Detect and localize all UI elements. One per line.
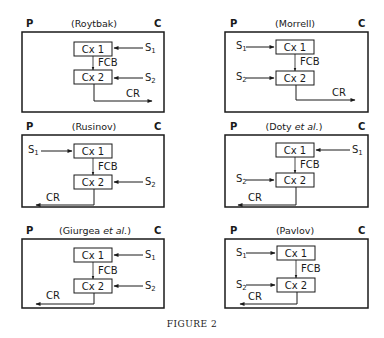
panel-title: (Rusinov): [72, 121, 117, 132]
p-label: P: [230, 225, 237, 236]
p-label: P: [230, 18, 237, 29]
figure-caption: FIGURE 2: [167, 319, 218, 329]
s2-label: S2: [145, 72, 156, 85]
cx1-label: Cx 1: [82, 44, 104, 55]
panel-rusinov: P (Rusinov) C Cx 1 Cx 2 FCB S1 S2 CR: [22, 121, 164, 207]
cx1-label: Cx 1: [82, 250, 104, 261]
fcb-label: FCB: [301, 263, 321, 274]
s1-label: S1: [236, 247, 247, 260]
c-label: C: [154, 121, 161, 132]
cx2-label: Cx 2: [82, 72, 104, 83]
cx1-label: Cx 1: [284, 42, 306, 53]
p-label: P: [26, 18, 33, 29]
s2-label: S2: [145, 280, 156, 293]
cr-arrow: [238, 187, 296, 205]
panel-giurgea: P (Giurgea et al.) C Cx 1 Cx 2 FCB S1 S2…: [22, 225, 164, 308]
cr-arrow: [36, 293, 94, 304]
cr-label: CR: [332, 87, 346, 98]
c-label: C: [358, 18, 365, 29]
cx1-label: Cx 1: [284, 145, 306, 156]
s2-label: S2: [236, 279, 247, 292]
cx2-label: Cx 2: [285, 280, 307, 291]
cx1-label: Cx 1: [82, 146, 104, 157]
s2-label: S2: [236, 71, 247, 84]
s1-label: S1: [145, 42, 156, 55]
figure-canvas: P (Roytbak) C Cx 1 Cx 2 FCB S1 S2 CR P (…: [0, 0, 384, 338]
c-label: C: [358, 121, 365, 132]
c-label: C: [154, 18, 161, 29]
panel-title: (Roytbak): [71, 18, 117, 29]
fcb-label: FCB: [98, 57, 118, 68]
panel-title: (Doty et al.): [266, 121, 323, 132]
panel-pavlov: P (Pavlov) C Cx 1 Cx 2 FCB S1 S2 CR: [225, 225, 368, 308]
panel-roytbak: P (Roytbak) C Cx 1 Cx 2 FCB S1 S2 CR: [22, 18, 164, 112]
s1-label: S1: [352, 144, 363, 157]
panel-morrell: P (Morrell) C Cx 1 Cx 2 FCB S1 S2 CR: [225, 18, 368, 112]
cx1-label: Cx 1: [285, 248, 307, 259]
s1-label: S1: [236, 40, 247, 53]
panel-doty: P (Doty et al.) C Cx 1 Cx 2 FCB S1 S2 CR: [225, 121, 368, 207]
p-label: P: [230, 121, 237, 132]
cr-label: CR: [248, 291, 262, 302]
cr-label: CR: [46, 290, 60, 301]
fcb-label: FCB: [98, 265, 118, 276]
s1-label: S1: [145, 249, 156, 262]
s2-label: S2: [236, 173, 247, 186]
fcb-label: FCB: [300, 56, 320, 67]
s2-label: S2: [145, 176, 156, 189]
cx2-label: Cx 2: [284, 175, 306, 186]
cr-label: CR: [46, 192, 60, 203]
cr-label: CR: [126, 88, 140, 99]
fcb-label: FCB: [98, 161, 118, 172]
p-label: P: [26, 225, 33, 236]
cx2-label: Cx 2: [82, 281, 104, 292]
s1-label: S1: [28, 144, 39, 157]
panel-title: (Morrell): [275, 18, 315, 29]
cx2-label: Cx 2: [284, 73, 306, 84]
fcb-label: FCB: [300, 159, 320, 170]
cx2-label: Cx 2: [82, 177, 104, 188]
cr-arrow: [296, 85, 355, 100]
cr-arrow: [36, 189, 94, 205]
panel-title: (Giurgea et al.): [59, 225, 131, 236]
c-label: C: [154, 225, 161, 236]
cr-arrow: [94, 84, 152, 101]
cr-label: CR: [248, 192, 262, 203]
panel-title: (Pavlov): [276, 225, 314, 236]
p-label: P: [26, 121, 33, 132]
c-label: C: [358, 225, 365, 236]
